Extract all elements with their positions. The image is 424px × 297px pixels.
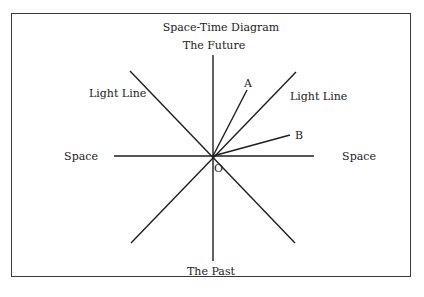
label-event-b: B bbox=[295, 130, 303, 141]
label-event-a: A bbox=[244, 78, 252, 89]
label-origin: O bbox=[214, 163, 223, 174]
label-past: The Past bbox=[187, 266, 235, 277]
worldline-a bbox=[213, 90, 247, 156]
diagram-title: Space-Time Diagram bbox=[163, 22, 280, 33]
label-space-right: Space bbox=[342, 151, 376, 162]
label-space-left: Space bbox=[64, 151, 98, 162]
label-future: The Future bbox=[183, 40, 245, 51]
label-light-line-left: Light Line bbox=[89, 88, 146, 99]
label-light-line-right: Light Line bbox=[290, 91, 347, 102]
